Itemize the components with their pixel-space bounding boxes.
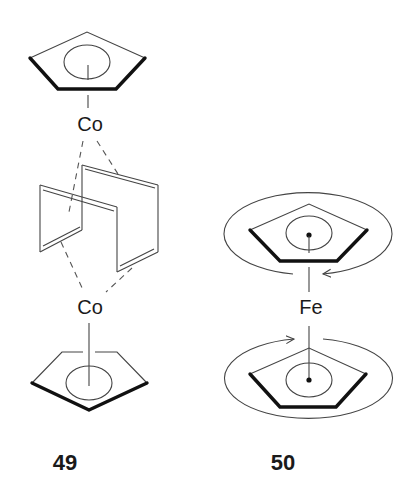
ring-centroid-dot: [306, 377, 311, 382]
cage-back-panel: [82, 165, 158, 272]
ring-back-edge-right: [95, 352, 147, 383]
top-cp-ring: [250, 204, 367, 292]
ring-back-edges: [250, 204, 367, 230]
atom-label-co-top: Co: [77, 113, 103, 135]
bottom-cp-ring: [250, 326, 366, 407]
chemical-structures-figure: Co Co: [0, 0, 410, 504]
dashed-bond-top-right: [97, 141, 118, 174]
cage-front-panel: [40, 185, 117, 252]
compound-number-50: 50: [271, 450, 295, 475]
bottom-cp-ring: [32, 323, 147, 410]
aromatic-circle: [64, 45, 110, 79]
atom-label-fe: Fe: [299, 296, 322, 318]
ring-front-edges-bold: [32, 383, 147, 410]
structure-50: Fe 50: [224, 193, 392, 475]
dashed-bond-bottom-left: [61, 242, 84, 292]
compound-number-49: 49: [53, 450, 77, 475]
ring-back-edges: [250, 348, 366, 374]
top-cp-ring: [30, 32, 145, 108]
structure-49: Co Co: [30, 32, 158, 475]
atom-label-co-bottom: Co: [77, 296, 103, 318]
ring-back-edge-left: [32, 352, 83, 383]
